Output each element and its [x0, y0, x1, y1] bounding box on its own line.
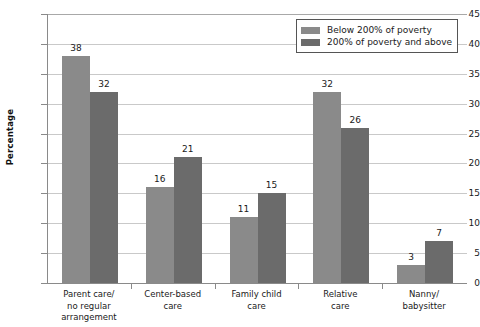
bar-value-label: 11 [238, 204, 249, 214]
legend: Below 200% of poverty 200% of poverty an… [296, 19, 458, 53]
plot-area: 383216211115322637 [47, 14, 467, 284]
bar-chart: Percentage 051015202530354045 3832162111… [0, 0, 480, 327]
gridline [48, 14, 467, 15]
bar [230, 217, 258, 283]
bar-value-label: 38 [70, 43, 81, 53]
legend-item-label: Below 200% of poverty [327, 25, 432, 35]
bar-value-label: 7 [436, 228, 442, 238]
bar [90, 92, 118, 283]
bar [425, 241, 453, 283]
bar-value-label: 21 [182, 144, 193, 154]
bar [258, 193, 286, 283]
legend-item-label: 200% of poverty and above [327, 37, 452, 47]
bar-value-label: 3 [408, 252, 414, 262]
x-axis-tick-mark [298, 284, 299, 289]
bar [397, 265, 425, 283]
x-axis-category-label: Center-based care [144, 289, 201, 312]
x-axis-tick-mark [215, 284, 216, 289]
legend-item: Below 200% of poverty [301, 24, 452, 36]
bar-value-label: 15 [266, 180, 277, 190]
bar-value-label: 26 [350, 115, 361, 125]
bar [313, 92, 341, 283]
y-axis-title: Percentage [5, 97, 15, 177]
bar-value-label: 32 [98, 79, 109, 89]
legend-swatch-icon [301, 27, 320, 34]
bar [341, 128, 369, 283]
bar-value-label: 16 [154, 174, 165, 184]
gridline [48, 74, 467, 75]
x-axis-tick-mark [131, 284, 132, 289]
x-axis-category-label: Relative care [323, 289, 357, 312]
chart-title-fragment [96, 0, 276, 1]
bar [174, 157, 202, 283]
x-axis-category-label: Nanny/ babysitter [402, 289, 445, 312]
bar [62, 56, 90, 283]
x-axis-tick-mark [382, 284, 383, 289]
legend-swatch-icon [301, 39, 320, 46]
legend-item: 200% of poverty and above [301, 36, 452, 48]
x-axis-category-label: Parent care/ no regular arrangement [61, 289, 117, 324]
bar-value-label: 32 [322, 79, 333, 89]
bar [146, 187, 174, 283]
x-axis-category-label: Family child care [231, 289, 281, 312]
